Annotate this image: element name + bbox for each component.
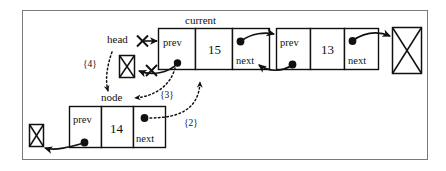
step-2-label: {2} bbox=[184, 118, 198, 128]
tail-prev-label: prev bbox=[280, 37, 299, 48]
current-next-label: next bbox=[236, 55, 254, 66]
tail-next-label: next bbox=[348, 55, 366, 66]
new-node-prev-label: prev bbox=[73, 114, 92, 125]
step-3-label: {3} bbox=[160, 90, 174, 100]
diagram-frame bbox=[22, 10, 428, 160]
step-4-label: {4} bbox=[83, 59, 97, 69]
new-node-next-label: next bbox=[136, 133, 154, 144]
pointer-label-head: head bbox=[107, 33, 128, 45]
current-prev-label: prev bbox=[163, 37, 182, 48]
pointer-label-current: current bbox=[185, 14, 216, 26]
tail-value: 13 bbox=[321, 42, 334, 58]
new-node-value: 14 bbox=[110, 121, 123, 137]
diagram-canvas: head current node prev 15 next prev 13 n… bbox=[0, 0, 446, 171]
pointer-label-node: node bbox=[101, 91, 122, 103]
current-value: 15 bbox=[208, 42, 221, 58]
